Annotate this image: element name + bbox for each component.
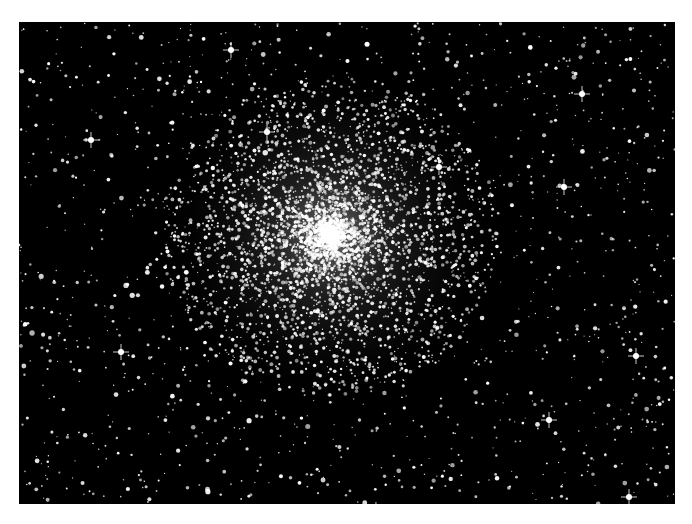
star-cluster-photo [19, 22, 675, 504]
star-field [19, 22, 675, 504]
